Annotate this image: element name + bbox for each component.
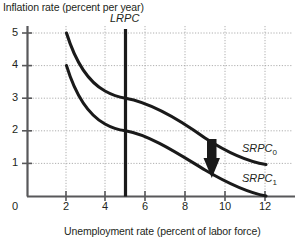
x-tick-label-8: 8 (178, 200, 192, 212)
srpc0-curve (67, 33, 267, 165)
x-tick-label-2: 2 (59, 200, 73, 212)
srpc0-label-subscript: 0 (273, 148, 277, 157)
y-tick-label-2: 2 (8, 123, 22, 135)
srpc0-label-text: SRPC (242, 142, 273, 154)
y-tick-label-5: 5 (8, 26, 22, 38)
y-tick-label-1: 1 (8, 156, 22, 168)
x-tick-label-10: 10 (216, 200, 234, 212)
x-axis-title: Unemployment rate (percent of labor forc… (64, 225, 261, 237)
x-tick-label-4: 4 (98, 200, 112, 212)
y-tick-label-4: 4 (8, 58, 22, 70)
vertical-gridlines (66, 26, 265, 196)
x-tick-label-12: 12 (256, 200, 274, 212)
srpc1-label-subscript: 1 (273, 178, 277, 187)
y-tick-label-0: 0 (8, 200, 22, 212)
srpc1-curve-label: SRPC1 (242, 172, 277, 187)
srpc0-curve-label: SRPC0 (242, 142, 277, 157)
srpc1-label-text: SRPC (242, 172, 273, 184)
x-tick-label-6: 6 (138, 200, 152, 212)
phillips-curve-figure: Inflation rate (percent per year) LRPC (0, 0, 299, 242)
y-tick-label-3: 3 (8, 91, 22, 103)
